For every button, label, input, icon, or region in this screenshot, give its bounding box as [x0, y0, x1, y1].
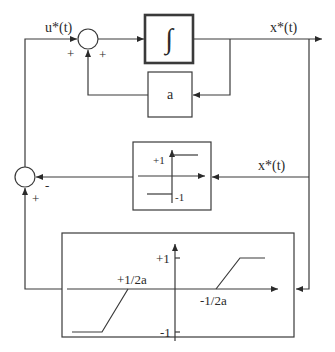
saturation-left-break-label: +1/2a	[117, 272, 147, 287]
saturation-plus-label: +1	[156, 251, 170, 266]
block-diagram: ∫ a u*(t) x*(t) x*(t) + + - + +1 -1 +1 -…	[0, 0, 335, 352]
summing-junction-left	[15, 167, 35, 187]
right-feedback-line	[296, 39, 309, 289]
summing-junction-top	[78, 29, 98, 49]
left-sum-sign-right: -	[45, 178, 49, 193]
relay-minus-label: -1	[175, 191, 184, 203]
left-sum-sign-bottom: +	[32, 191, 39, 206]
saturation-output-line	[25, 188, 62, 289]
gain-to-sum-line	[88, 50, 148, 95]
gain-feedback-line	[193, 39, 230, 95]
gain-label: a	[167, 87, 174, 102]
top-sum-sign-bottom: +	[99, 47, 106, 62]
relay-plus-label: +1	[153, 154, 165, 166]
top-sum-sign-left: +	[67, 46, 74, 61]
saturation-minus-label: -1	[160, 325, 171, 340]
input-signal-label: u*(t)	[45, 20, 73, 36]
saturation-right-break-label: -1/2a	[200, 293, 227, 308]
output-signal-label: x*(t)	[270, 20, 298, 36]
saturation-block	[62, 233, 294, 337]
feedback-signal-label: x*(t)	[258, 158, 286, 174]
